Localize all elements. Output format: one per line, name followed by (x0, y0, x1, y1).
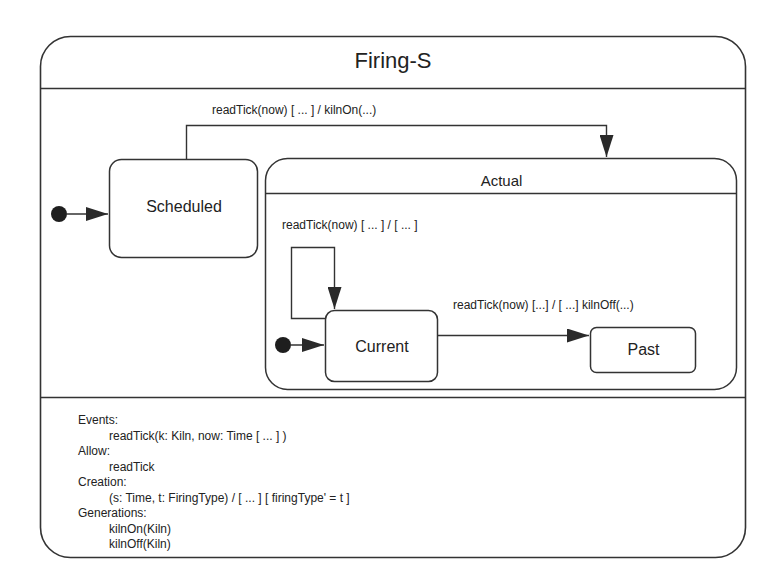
transition-scheduled-to-actual (187, 126, 607, 160)
transition-current-self-loop (292, 248, 335, 319)
allow-item: readTick (78, 460, 350, 476)
allow-heading: Allow: (78, 444, 350, 460)
actual-state-label: Actual (266, 172, 737, 189)
actual-initial-state-dot (275, 337, 291, 353)
transition-label-current-self-loop: readTick(now) [ ... ] / [ ... ] (282, 218, 418, 232)
generations-heading: Generations: (78, 506, 350, 522)
past-state-label: Past (591, 341, 696, 359)
events-heading: Events: (78, 413, 350, 429)
state-info-compartment: Events: readTick(k: Kiln, now: Time [ ..… (78, 413, 350, 553)
generation-item: kilnOn(Kiln) (78, 522, 350, 538)
scheduled-state-label: Scheduled (110, 198, 258, 216)
transition-label-scheduled-to-actual: readTick(now) [ ... ] / kilnOn(...) (212, 103, 376, 117)
creation-heading: Creation: (78, 475, 350, 491)
diagram-title: Firing-S (40, 48, 746, 74)
transition-label-current-to-past: readTick(now) [...] / [ ...] kilnOff(...… (453, 298, 634, 312)
event-item: readTick(k: Kiln, now: Time [ ... ] ) (78, 429, 350, 445)
generation-item: kilnOff(Kiln) (78, 537, 350, 553)
current-state-label: Current (326, 338, 438, 356)
creation-item: (s: Time, t: FiringType) / [ ... ] [ fir… (78, 491, 350, 507)
initial-state-dot (51, 206, 67, 222)
